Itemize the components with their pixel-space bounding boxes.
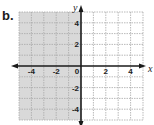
x-axis-left-arrow-icon — [11, 64, 18, 69]
x-tick-label: 0 — [75, 67, 80, 76]
x-tick-label: 4 — [128, 67, 133, 76]
x-tick-label: -2 — [53, 67, 61, 76]
y-axis-up-arrow-icon — [79, 5, 84, 12]
y-axis-down-arrow-icon — [79, 121, 84, 125]
x-axis-right-arrow-icon — [139, 64, 146, 69]
coordinate-plane: -4-202442-2-4xy — [0, 0, 154, 125]
x-tick-label: 2 — [104, 67, 109, 76]
x-axis-label: x — [147, 63, 153, 74]
x-tick-label: -4 — [28, 67, 36, 76]
y-tick-label: 2 — [75, 40, 80, 49]
y-tick-label: -2 — [72, 84, 80, 93]
y-tick-label: -4 — [72, 105, 80, 114]
y-axis-label: y — [72, 2, 78, 13]
y-tick-label: 4 — [75, 19, 80, 28]
